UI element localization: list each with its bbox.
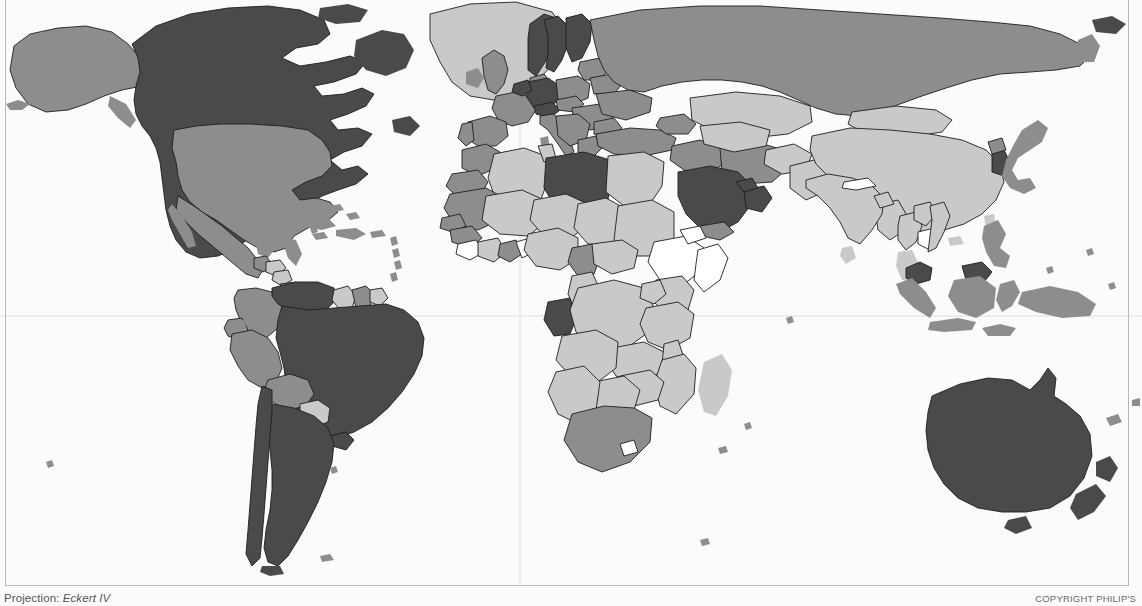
world-map-svg[interactable]: .d { fill:#4a4a4d; } .m { fill:#8d8d90; … bbox=[0, 0, 1142, 586]
map-plate[interactable]: .d { fill:#4a4a4d; } .m { fill:#8d8d90; … bbox=[0, 0, 1142, 586]
map-page: .d { fill:#4a4a4d; } .m { fill:#8d8d90; … bbox=[0, 0, 1142, 606]
projection-caption: Projection: Eckert IV bbox=[4, 592, 110, 604]
frame-left-rule bbox=[5, 0, 6, 586]
projection-name: Eckert IV bbox=[63, 592, 111, 604]
frame-right-rule bbox=[1128, 0, 1129, 586]
copyright-caption: COPYRIGHT PHILIP'S bbox=[1035, 593, 1136, 604]
frame-bottom-rule bbox=[5, 585, 1129, 586]
projection-label: Projection: bbox=[4, 592, 59, 604]
